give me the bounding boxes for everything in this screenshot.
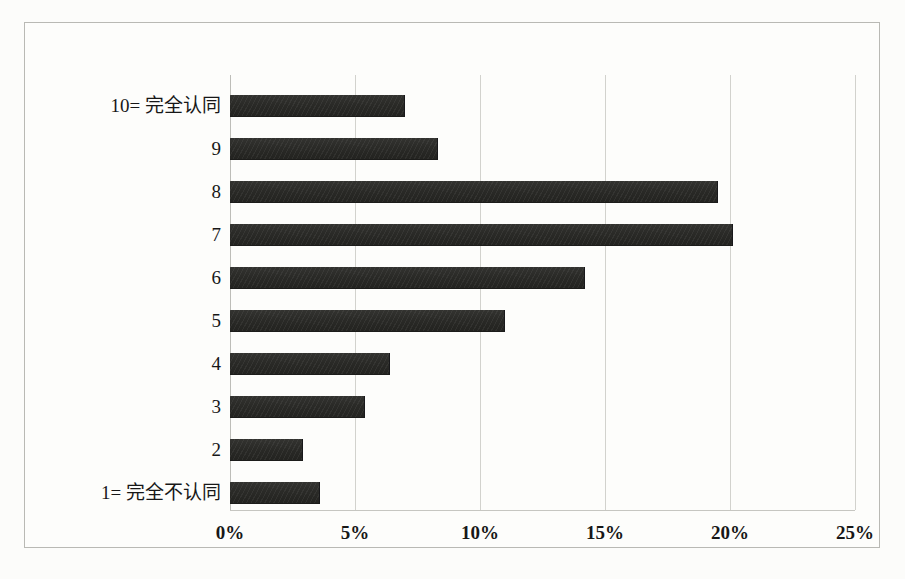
bar-7[interactable]: [230, 224, 733, 246]
bar-5[interactable]: [230, 310, 505, 332]
bar-9[interactable]: [230, 138, 438, 160]
plot-area: [230, 75, 855, 510]
category-label-3: 3: [31, 396, 221, 418]
x-tick-label-0pct: 0%: [216, 522, 245, 544]
scanned-page: 10= 完全认同987654321= 完全不认同 0%5%10%15%20%25…: [0, 0, 905, 579]
bar-10[interactable]: [230, 95, 405, 117]
category-label-5: 5: [31, 310, 221, 332]
bar-row: [230, 310, 855, 332]
gridline-25pct: [855, 75, 856, 510]
bar-row: [230, 95, 855, 117]
chart-frame: 10= 完全认同987654321= 完全不认同 0%5%10%15%20%25…: [24, 22, 880, 548]
bar-row: [230, 396, 855, 418]
category-label-9: 9: [31, 138, 221, 160]
category-label-10: 10= 完全认同: [31, 95, 221, 117]
x-tick-label-20pct: 20%: [711, 522, 749, 544]
bar-1[interactable]: [230, 482, 320, 504]
x-tick-label-25pct: 25%: [836, 522, 874, 544]
bar-2[interactable]: [230, 439, 303, 461]
x-axis-tick-labels: 0%5%10%15%20%25%: [230, 522, 855, 552]
bar-3[interactable]: [230, 396, 365, 418]
bar-6[interactable]: [230, 267, 585, 289]
bar-4[interactable]: [230, 353, 390, 375]
bar-row: [230, 353, 855, 375]
category-label-1: 1= 完全不认同: [31, 482, 221, 504]
x-tick-label-10pct: 10%: [461, 522, 499, 544]
bar-8[interactable]: [230, 181, 718, 203]
category-label-8: 8: [31, 181, 221, 203]
category-label-6: 6: [31, 267, 221, 289]
category-label-7: 7: [31, 224, 221, 246]
bar-row: [230, 267, 855, 289]
bar-row: [230, 439, 855, 461]
bar-row: [230, 482, 855, 504]
x-tick-label-15pct: 15%: [586, 522, 624, 544]
category-axis-labels: 10= 完全认同987654321= 完全不认同: [25, 75, 221, 510]
category-label-4: 4: [31, 353, 221, 375]
x-tick-label-5pct: 5%: [341, 522, 370, 544]
bar-row: [230, 181, 855, 203]
category-label-2: 2: [31, 439, 221, 461]
bar-row: [230, 138, 855, 160]
bar-row: [230, 224, 855, 246]
x-axis-baseline: [230, 510, 855, 511]
